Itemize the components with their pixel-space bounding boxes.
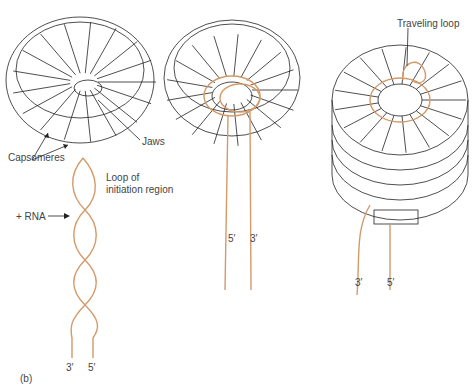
capsomere-divider <box>234 104 238 146</box>
capsomere-divider <box>64 24 80 73</box>
capsid-stack-3 <box>332 45 468 224</box>
capsomere-divider <box>85 22 90 73</box>
capsomere-divider <box>90 28 116 74</box>
capsomere-divider <box>167 93 212 101</box>
loop-label-line1: Loop of <box>106 172 139 183</box>
capsomere-divider <box>90 90 116 136</box>
capsomere-divider <box>176 61 215 83</box>
jaws-label: Jaws <box>142 136 165 147</box>
capsomere-divider <box>192 45 220 79</box>
capsomere-divider <box>97 85 151 103</box>
capsomere-divider <box>167 80 212 88</box>
capsomere-divider <box>241 103 262 141</box>
capsomere-divider <box>23 50 72 77</box>
capsomeres-label: Capsomeres <box>8 152 65 163</box>
loop-label-line2: initiation region <box>106 184 173 195</box>
capsomere-divider <box>13 71 70 80</box>
panel2-end-right: 3′ <box>250 233 257 244</box>
capsid-disk-2 <box>164 20 300 146</box>
panel1-end-left: 3′ <box>66 362 73 373</box>
capsomere-divider <box>41 89 76 130</box>
rna-helix <box>71 158 97 358</box>
capsomere-divider <box>214 103 227 143</box>
capsomere-divider <box>421 106 462 119</box>
capsomere-divider <box>241 40 262 78</box>
traveling-loop-pointer <box>407 28 408 66</box>
rna-arrowhead <box>64 213 70 219</box>
capsomere-divider <box>421 81 462 94</box>
capsomere-divider <box>192 101 220 135</box>
rna-loop-3 <box>357 62 430 295</box>
traveling-loop-label: Traveling loop <box>397 18 459 29</box>
capsomere-divider <box>214 36 227 76</box>
capsomere-divider <box>85 91 90 142</box>
panel3-end-left: 3′ <box>355 277 362 288</box>
capsomere-divider <box>97 60 151 78</box>
diagram-canvas <box>0 0 476 387</box>
panel3-end-right: 5′ <box>387 277 394 288</box>
capsid-disk-1 <box>6 17 156 143</box>
panel1-end-right: 5′ <box>88 362 95 373</box>
capsomere-divider <box>416 64 449 89</box>
capsomere-divider <box>416 111 449 136</box>
rna-loop-2 <box>204 76 260 290</box>
capsomere-divider <box>41 34 76 75</box>
panel2-end-left: 5′ <box>228 233 235 244</box>
panel-label: (b) <box>20 373 32 384</box>
capsomere-divider <box>94 42 137 76</box>
rna-label: + RNA <box>16 211 46 222</box>
capsomere-divider <box>234 34 238 76</box>
capsomere-divider <box>13 84 70 93</box>
capsomere-divider <box>64 91 80 140</box>
